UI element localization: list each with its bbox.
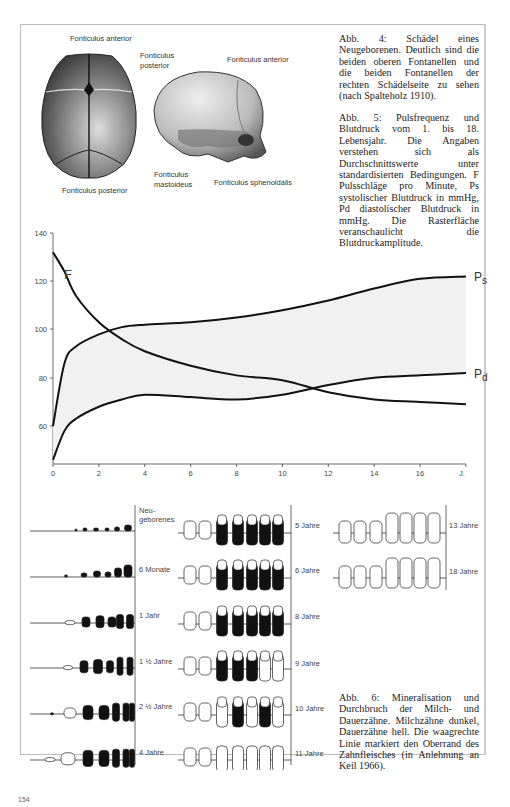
- label-top-fonticulus-anterior: Fonticulus anterior: [70, 34, 132, 43]
- skull-side-view-illustration: [148, 70, 270, 170]
- label-side-fonticulus-mastoideus-2: mastoideus: [154, 180, 192, 189]
- label-side-fonticulus-anterior: Fonticulus anterior: [227, 55, 289, 64]
- stage-label-5-jahre: 5 Jahre: [295, 521, 320, 530]
- stage-label-neugeborenes-1: Neu-: [139, 506, 155, 515]
- svg-text:2: 2: [97, 469, 101, 478]
- svg-text:6: 6: [189, 469, 193, 478]
- page-number: 154: [18, 796, 30, 803]
- svg-text:140: 140: [34, 229, 47, 238]
- series-label-Ps: Ps: [474, 270, 487, 286]
- stage-label-6-jahre: 6 Jahre: [295, 566, 320, 575]
- stage-label-neugeborenes-2: geborenes: [139, 515, 174, 524]
- skull-top-view-illustration: [36, 52, 142, 182]
- label-side-fonticulus-sphenoidalis: Fonticulus sphenoidalis: [214, 178, 292, 187]
- stage-label-18-jahre: 18 Jahre: [449, 567, 478, 576]
- svg-text:100: 100: [34, 325, 47, 334]
- label-side-fonticulus-mastoideus-1: Fonticulus: [154, 170, 188, 179]
- stage-label-9-jahre: 9 Jahre: [295, 659, 320, 668]
- svg-text:80: 80: [39, 374, 47, 383]
- stage-label-13-jahre: 13 Jahre: [449, 521, 478, 530]
- svg-text:10: 10: [278, 469, 286, 478]
- svg-text:60: 60: [39, 422, 47, 431]
- stage-label-6-monate: 6 Monate: [139, 565, 170, 574]
- label-side-fonticulus-posterior-1: Fonticulus: [140, 51, 174, 60]
- figure6-caption: Abb. 6: Mineralisation und Durchbruch de…: [339, 692, 479, 772]
- label-side-fonticulus-posterior-2: posterior: [140, 61, 169, 70]
- svg-text:8: 8: [234, 469, 238, 478]
- stage-label-1-jahr: 1 Jahr: [139, 611, 160, 620]
- svg-text:120: 120: [34, 277, 47, 286]
- stage-label-10-jahre: 10 Jahre: [295, 704, 324, 713]
- series-label-Pd: Pd: [474, 367, 488, 383]
- svg-text:14: 14: [370, 469, 378, 478]
- pulse-bloodpressure-chart: 140 120 100 80 60 0246810121416J.: [0, 220, 510, 480]
- figure4-caption: Abb. 4: Schädel eines Neugeborenen. Deut…: [339, 33, 479, 101]
- svg-text:12: 12: [324, 469, 332, 478]
- svg-text:4: 4: [143, 469, 147, 478]
- stage-label-11-jahre: 11 Jahre: [295, 749, 324, 758]
- series-label-F: F: [64, 268, 72, 281]
- svg-text:J.: J.: [459, 469, 465, 478]
- svg-text:16: 16: [416, 469, 424, 478]
- stage-label-1-5-jahre: 1 ½ Jahre: [139, 657, 172, 666]
- label-top-fonticulus-posterior: Fonticulus posterior: [62, 186, 127, 195]
- stage-label-8-jahre: 8 Jahre: [295, 612, 320, 621]
- svg-text:0: 0: [51, 469, 55, 478]
- stage-label-4-jahre: 4 Jahre: [139, 748, 164, 757]
- stage-label-2-5-jahre: 2 ½ Jahre: [139, 702, 172, 711]
